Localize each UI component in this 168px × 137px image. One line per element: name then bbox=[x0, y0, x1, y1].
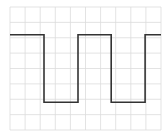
grid-lines bbox=[10, 7, 161, 130]
square-wave-chart bbox=[0, 0, 168, 137]
